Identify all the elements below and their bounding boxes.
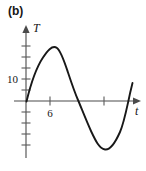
x-tick-label-6: 6: [47, 107, 53, 119]
y-axis-arrow-icon: [22, 25, 29, 33]
x-axis-title: t: [135, 104, 139, 118]
y-axis-title: T: [33, 21, 41, 35]
chart-plot: T t 10 6: [0, 0, 146, 171]
temperature-curve: [27, 47, 133, 150]
figure-panel: (b) T t 10 6: [0, 0, 146, 171]
y-tick-label-10: 10: [7, 73, 19, 85]
